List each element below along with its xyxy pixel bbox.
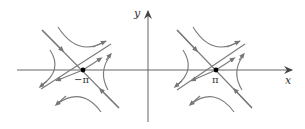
separatrix-unstable	[177, 44, 245, 90]
equilibrium-point-left	[81, 68, 86, 73]
x-axis-label: x	[285, 75, 291, 86]
equilibrium-label-right: π	[212, 75, 219, 85]
trajectory-left	[42, 50, 55, 85]
equilibrium-point-right	[214, 68, 219, 73]
y-axis-label: y	[134, 8, 140, 19]
trajectory-left	[177, 50, 188, 85]
equilibrium-label-left: −π	[74, 75, 89, 85]
saddle-left	[41, 27, 119, 112]
trajectory-right	[237, 56, 243, 90]
trajectory-bottom	[57, 97, 101, 112]
phase-portrait	[0, 0, 305, 129]
trajectory-right	[103, 56, 110, 90]
